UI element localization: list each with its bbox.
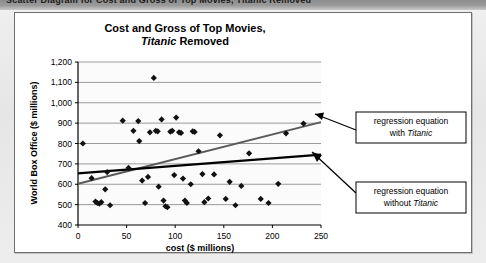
y-tick-label: 1,000 <box>51 98 73 108</box>
y-axis-title: World Box Office ($ millions) <box>29 82 39 205</box>
y-axis-tick-labels: 4005006007008009001,0001,1001,200 <box>51 57 73 230</box>
chart-panel: Cost and Gross of Top Movies, Titanic Re… <box>14 12 472 253</box>
callout-without-titanic: regression equation without Titanic <box>312 152 466 213</box>
callout-without-titanic-line2: without Titanic <box>383 198 439 208</box>
x-tick-label: 250 <box>314 231 328 241</box>
x-tick-label: 150 <box>217 231 231 241</box>
x-tick-label: 200 <box>265 231 279 241</box>
x-tick-label: 100 <box>168 231 182 241</box>
y-tick-label: 700 <box>58 159 72 169</box>
y-tick-label: 1,200 <box>51 57 73 67</box>
callout-with-titanic-line1: regression equation <box>374 116 449 126</box>
y-tick-label: 500 <box>58 200 72 210</box>
callout-without-titanic-line1: regression equation <box>374 186 449 196</box>
y-tick-label: 1,100 <box>51 77 73 87</box>
window-banner: Scatter Diagram for Cost and Gross of To… <box>0 0 486 10</box>
y-tick-label: 400 <box>58 220 72 230</box>
x-axis-title: cost ($ millions) <box>166 243 235 253</box>
y-tick-label: 900 <box>58 118 72 128</box>
callout-with-titanic-line2: with Titanic <box>389 128 433 138</box>
x-tick-label: 50 <box>122 231 132 241</box>
callout-with-titanic: regression equation with Titanic <box>315 112 466 143</box>
x-axis-tick-labels: 050100150200250 <box>76 231 329 241</box>
scatter-chart: 4005006007008009001,0001,1001,200 050100… <box>15 13 473 254</box>
x-tick-label: 0 <box>76 231 81 241</box>
banner-title: Scatter Diagram for Cost and Gross of To… <box>6 0 311 5</box>
y-tick-label: 600 <box>58 179 72 189</box>
y-tick-label: 800 <box>58 139 72 149</box>
